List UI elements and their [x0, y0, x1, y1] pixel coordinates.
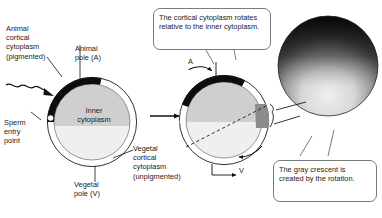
callout-cortical-rotation: The cortical cytoplasm rotates relative … [153, 8, 271, 50]
label-vegetal-cortical-cytoplasm: Vegetal cortical cytoplasm (unpigmented) [133, 144, 195, 181]
crescent-bracket [270, 104, 273, 127]
label-inner-cytoplasm: Inner cytoplasm [72, 106, 116, 124]
gray-crescent [255, 104, 269, 128]
label-vegetal-pole: Vegetal pole (V) [74, 180, 120, 198]
callout-gray-crescent: The gray crescent is created by the rota… [273, 160, 377, 202]
label-sperm-entry-point: Sperm entry point [4, 118, 44, 146]
label-pole-a-middle: A [188, 57, 193, 66]
magnified-egg-photo-icon [278, 16, 378, 116]
sperm-icon [6, 84, 54, 96]
sperm-entry-dot-left [48, 115, 53, 120]
label-animal-cortical-cytoplasm: Animal cortical cytoplasm (pigmented) [6, 24, 72, 61]
label-animal-pole: Animal pole (A) [75, 44, 123, 62]
figure-canvas: Animal cortical cytoplasm (pigmented) An… [0, 0, 382, 218]
sperm-entry-dot-middle [179, 120, 184, 125]
label-pole-v-middle: V [239, 166, 244, 175]
